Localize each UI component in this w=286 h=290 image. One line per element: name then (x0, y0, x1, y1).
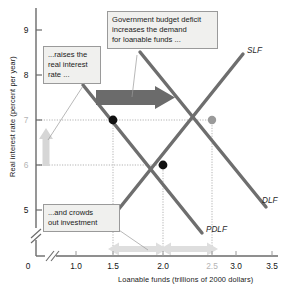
y-axis-title: Real interest rate (percent per year) (8, 37, 17, 197)
leader-line-raises (48, 86, 83, 140)
curve-label-slf: SLF (247, 46, 262, 55)
y-tick-marks (36, 30, 42, 210)
x-tick-label-2p5: 2.5 (200, 261, 224, 271)
raises-rate-callout: ...raises the real interest rate ... (43, 46, 101, 84)
government-deficit-callout: Government budget deficit increases the … (107, 11, 218, 49)
y-tick-label-6: 6 (20, 160, 32, 170)
x-tick-label-1p5: 1.5 (101, 261, 125, 271)
curve-label-dlf: DLF (262, 196, 277, 205)
demand-shift-arrow (96, 86, 175, 109)
y-tick-label-5: 5 (20, 205, 32, 215)
marker-initial-equilibrium (109, 116, 118, 125)
x-tick-label-3p5: 3.5 (260, 261, 284, 271)
y-axis-break-1 (31, 229, 41, 238)
curve-slf (110, 54, 243, 220)
curve-dlf (140, 52, 266, 207)
loanable-funds-market-figure: 9 8 7 6 5 0 1.0 1.5 2.0 2.5 3.0 3.5 SLF … (0, 0, 286, 290)
guide-lines (36, 120, 212, 256)
x-tick-label-1p0: 1.0 (64, 261, 88, 271)
crowds-out-callout: ...and crowds out investment (43, 204, 120, 232)
x-tick-label-3p0: 3.0 (224, 261, 248, 271)
curve-label-pdlf: PDLF (206, 225, 227, 234)
x-tick-label-2p0: 2.0 (151, 261, 175, 271)
y-tick-label-9: 9 (20, 25, 32, 35)
interest-rate-rise-arrow (39, 128, 53, 166)
marker-private-investment (159, 161, 168, 170)
y-tick-label-8: 8 (20, 70, 32, 80)
x-axis-title: Loanable funds (trillions of 2000 dollar… (118, 275, 253, 284)
marker-new-equilibrium (208, 116, 216, 124)
x-tick-label-0: 0 (22, 261, 34, 271)
y-tick-label-7: 7 (20, 115, 32, 125)
